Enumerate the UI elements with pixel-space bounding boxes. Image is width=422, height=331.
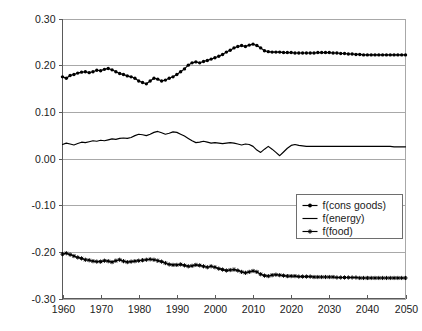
- data-point-marker: [91, 259, 95, 263]
- data-point-marker: [167, 262, 171, 266]
- data-point-marker: [68, 74, 71, 77]
- data-point-marker: [236, 268, 240, 272]
- data-point-marker: [179, 262, 183, 266]
- data-point-marker: [358, 276, 362, 280]
- data-point-marker: [396, 53, 399, 56]
- data-point-marker: [316, 275, 320, 279]
- data-point-marker: [278, 273, 282, 277]
- data-point-marker: [400, 53, 403, 56]
- data-point-marker: [289, 51, 292, 54]
- data-point-marker: [61, 75, 64, 78]
- data-point-marker: [274, 273, 278, 277]
- data-point-marker: [343, 52, 346, 55]
- data-point-marker: [217, 55, 220, 58]
- data-point-marker: [262, 274, 266, 278]
- data-point-marker: [205, 265, 209, 269]
- legend-label: f(cons goods): [323, 199, 387, 211]
- data-point-marker: [266, 274, 270, 278]
- data-point-marker: [370, 53, 373, 56]
- data-point-marker: [87, 258, 91, 262]
- data-point-marker: [163, 261, 167, 265]
- data-point-marker: [373, 53, 376, 56]
- data-point-marker: [308, 274, 312, 278]
- data-point-marker: [270, 50, 273, 53]
- x-tick-label: 1970: [90, 303, 114, 315]
- data-point-marker: [171, 263, 175, 267]
- data-point-marker: [396, 276, 400, 280]
- data-point-marker: [263, 49, 266, 52]
- data-point-marker: [365, 276, 369, 280]
- data-point-marker: [114, 70, 117, 73]
- data-point-marker: [251, 269, 255, 273]
- chart-container: 0.300.200.100.00-0.10-0.20-0.30 19601970…: [0, 0, 422, 331]
- data-point-marker: [84, 70, 87, 73]
- data-point-marker: [118, 72, 121, 75]
- data-point-marker: [99, 69, 102, 72]
- data-point-marker: [175, 73, 178, 76]
- series-layer: [60, 42, 407, 280]
- series-line: [63, 253, 406, 278]
- data-point-marker: [107, 67, 110, 70]
- data-point-marker: [361, 276, 365, 280]
- data-point-marker: [327, 275, 331, 279]
- data-point-marker: [286, 51, 289, 54]
- data-point-marker: [194, 263, 198, 267]
- data-point-marker: [244, 45, 247, 48]
- data-point-marker: [312, 51, 315, 54]
- data-point-marker: [293, 274, 297, 278]
- data-point-marker: [72, 254, 76, 258]
- data-point-marker: [164, 78, 167, 81]
- data-point-marker: [224, 268, 228, 272]
- x-tick-label: 1990: [166, 303, 190, 315]
- y-tick-label: -0.10: [32, 199, 56, 211]
- data-point-marker: [331, 51, 334, 54]
- data-point-marker: [267, 50, 270, 53]
- data-point-marker: [247, 270, 251, 274]
- data-point-marker: [68, 253, 72, 257]
- data-point-marker: [79, 256, 83, 260]
- data-point-marker: [194, 60, 197, 63]
- data-point-marker: [133, 259, 137, 263]
- x-tick-label: 2000: [204, 303, 228, 315]
- data-point-marker: [346, 275, 350, 279]
- data-point-marker: [339, 275, 343, 279]
- data-point-marker: [102, 259, 106, 263]
- data-point-marker: [190, 61, 193, 64]
- data-point-marker: [232, 267, 236, 271]
- data-point-marker: [347, 52, 350, 55]
- data-point-marker: [137, 79, 140, 82]
- data-point-marker: [168, 77, 171, 80]
- data-point-marker: [255, 44, 258, 47]
- data-point-marker: [201, 264, 205, 268]
- data-point-marker: [240, 44, 243, 47]
- data-point-marker: [305, 51, 308, 54]
- data-point-marker: [255, 270, 259, 274]
- x-tick-label: 2020: [280, 303, 304, 315]
- series-f-cons-goods: [61, 42, 407, 85]
- data-point-marker: [209, 264, 213, 268]
- data-point-marker: [198, 263, 202, 267]
- data-point-marker: [320, 51, 323, 54]
- data-point-marker: [140, 258, 144, 262]
- data-point-marker: [232, 46, 235, 49]
- line-chart: 0.300.200.100.00-0.10-0.20-0.30 19601970…: [0, 0, 422, 331]
- data-point-marker: [323, 275, 327, 279]
- data-point-marker: [404, 53, 407, 56]
- data-point-marker: [297, 274, 301, 278]
- data-point-marker: [228, 268, 232, 272]
- x-tick-label: 2040: [356, 303, 380, 315]
- data-point-marker: [60, 252, 64, 256]
- data-point-marker: [148, 257, 152, 261]
- data-point-marker: [392, 276, 396, 280]
- data-point-marker: [270, 273, 274, 277]
- data-point-marker: [156, 77, 159, 80]
- data-point-marker: [350, 52, 353, 55]
- x-tick-label: 2030: [318, 303, 342, 315]
- series-line: [63, 131, 406, 155]
- data-point-marker: [213, 265, 217, 269]
- data-point-marker: [350, 275, 354, 279]
- data-point-marker: [240, 270, 244, 274]
- y-tick-label: 0.10: [35, 106, 56, 118]
- data-point-marker: [129, 260, 133, 264]
- y-tick-label: 0.20: [35, 59, 56, 71]
